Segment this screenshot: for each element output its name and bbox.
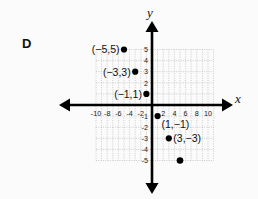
y-tick-2: 2 — [144, 79, 148, 88]
x-tick-4: 4 — [172, 109, 176, 118]
y-axis-label: y — [145, 5, 153, 20]
data-point-(-3,3) — [132, 69, 138, 75]
x-tick-2: 2 — [161, 109, 165, 118]
point-label-(-5,5): (−5,5) — [92, 43, 120, 55]
y-tick--4: -4 — [142, 145, 148, 154]
y-axis-arrow-up — [146, 21, 159, 32]
x-axis-arrow-right — [222, 99, 233, 112]
coordinate-plane-figure: D — [0, 0, 258, 199]
x-axis-arrow-left — [59, 99, 70, 112]
x-axis-label: x — [234, 91, 241, 106]
point-label-(3,-3): (3,−3) — [173, 132, 201, 144]
y-tick-4: 4 — [144, 56, 148, 65]
data-point-(3,-3) — [166, 135, 172, 141]
x-tick--8: -8 — [104, 109, 110, 118]
x-tick--6: -6 — [115, 109, 121, 118]
data-point-(-1,1) — [143, 91, 149, 97]
point-label-(-3,3): (−3,3) — [103, 66, 131, 78]
data-point-(1,-1) — [155, 113, 161, 119]
x-tick-10: 10 — [204, 109, 212, 118]
point-label-(1,-1): (1,−1) — [162, 118, 190, 130]
x-tick--10: -10 — [91, 109, 101, 118]
x-tick--4: -4 — [126, 109, 132, 118]
y-tick--2: -2 — [142, 123, 148, 132]
data-point-(-5,5) — [121, 46, 127, 52]
y-tick--5: -5 — [142, 156, 148, 165]
data-point-(5,-5) — [177, 157, 184, 164]
x-tick-8: 8 — [195, 109, 199, 118]
point-label-(-1,1): (−1,1) — [114, 88, 142, 100]
y-tick-3: 3 — [144, 67, 148, 76]
y-axis-arrow-down — [146, 183, 159, 194]
y-tick--3: -3 — [142, 134, 148, 143]
y-tick-5: 5 — [144, 45, 148, 54]
y-tick--1: -1 — [142, 112, 148, 121]
x-tick-6: 6 — [184, 109, 188, 118]
coordinate-plane-plot: x y -10 -8 -6 -4 -2 2 4 6 8 10 5 4 3 2 -… — [0, 0, 258, 199]
